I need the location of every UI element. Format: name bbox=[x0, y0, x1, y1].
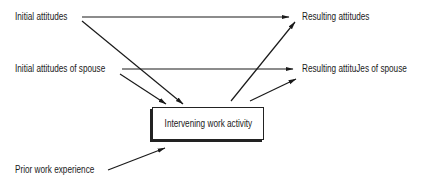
edge-spouse-to-center bbox=[120, 74, 166, 104]
node-intervening-work-activity: Intervening work activity bbox=[152, 107, 264, 140]
node-resulting-attitudes-spouse: Resulting attituJes of spouse bbox=[302, 63, 407, 75]
node-resulting-attitudes: Resulting attitudes bbox=[302, 11, 369, 23]
edge-center-to-resulting-spouse bbox=[250, 79, 296, 101]
node-initial-attitudes: Initial attitudes bbox=[15, 11, 67, 23]
edge-prior-to-center bbox=[108, 148, 165, 170]
edge-center-to-resulting bbox=[231, 22, 295, 101]
node-prior-work-experience: Prior work experience bbox=[15, 164, 94, 176]
center-label: Intervening work activity bbox=[164, 118, 252, 129]
diagram-arrows bbox=[0, 0, 429, 187]
node-initial-attitudes-spouse: Initial attitudes of spouse bbox=[15, 63, 105, 75]
